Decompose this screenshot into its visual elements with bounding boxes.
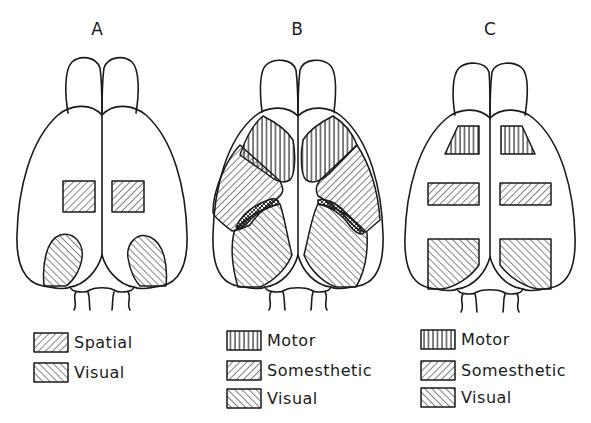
legend-b: Motor Somesthetic Visual: [227, 331, 372, 408]
legend-label-visual: Visual: [267, 389, 318, 408]
visual-region-right-c: [500, 239, 551, 289]
panel-c-label: C: [484, 19, 496, 39]
panel-b-label: B: [291, 19, 303, 39]
legend-swatch-visual: [34, 363, 68, 382]
visual-region-right: [128, 236, 167, 286]
somesthetic-region-left-c: [428, 183, 479, 205]
legend-label-somesthetic: Somesthetic: [267, 361, 372, 380]
legend-label-motor: Motor: [267, 331, 316, 350]
visual-region-left-c: [428, 239, 479, 289]
legend-label-spatial: Spatial: [74, 333, 133, 352]
legend-swatch-motor: [421, 330, 455, 349]
somesthetic-region-right-c: [500, 183, 551, 205]
legend-swatch-visual: [227, 389, 261, 408]
panel-c: C Motor Somesthetic Vis: [405, 19, 575, 407]
spatial-region-left: [63, 181, 95, 212]
motor-region-right-c: [501, 126, 535, 154]
legend-label-somesthetic: Somesthetic: [461, 361, 566, 380]
legend-swatch-visual: [421, 388, 455, 407]
motor-region-left-c: [445, 126, 479, 154]
visual-region-left: [44, 234, 83, 286]
legend-swatch-motor: [227, 331, 261, 350]
legend-label-visual: Visual: [74, 363, 125, 382]
legend-swatch-somesthetic: [227, 361, 261, 380]
legend-label-visual: Visual: [461, 388, 512, 407]
legend-swatch-spatial: [34, 333, 68, 352]
legend-swatch-somesthetic: [421, 361, 455, 380]
brain-map-figure: A Spatial Visual: [0, 0, 591, 423]
legend-a: Spatial Visual: [34, 333, 133, 382]
legend-label-motor: Motor: [461, 330, 510, 349]
legend-c: Motor Somesthetic Visual: [421, 330, 566, 407]
panel-a: A Spatial Visual: [17, 19, 187, 382]
panel-b: B Motor Somestheti: [213, 19, 383, 408]
spatial-region-right: [112, 181, 144, 212]
panel-a-label: A: [91, 19, 103, 39]
